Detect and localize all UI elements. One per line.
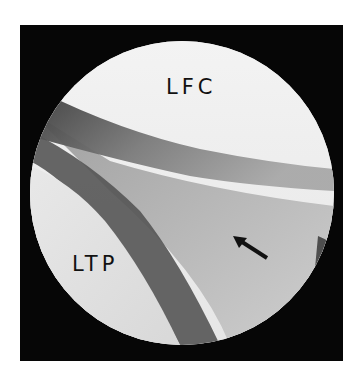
- label-lfc: LFC: [166, 75, 216, 99]
- arrow-icon: [225, 228, 275, 268]
- label-ltp: LTP: [72, 252, 118, 276]
